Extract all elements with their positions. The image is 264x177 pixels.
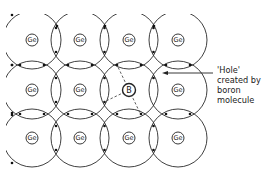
boron-atom: B bbox=[123, 84, 136, 97]
atom-label: Ge bbox=[27, 86, 36, 94]
germanium-atom: Ge bbox=[172, 34, 184, 46]
electron-dot bbox=[104, 25, 107, 28]
atom-label: Ge bbox=[124, 36, 133, 44]
germanium-atom: Ge bbox=[26, 84, 38, 96]
hole-arrow bbox=[162, 71, 213, 75]
electron-dot bbox=[103, 77, 106, 80]
electron-dot bbox=[55, 51, 58, 54]
electron-dot bbox=[165, 64, 168, 67]
germanium-atom: Ge bbox=[172, 84, 184, 96]
atom-label: Ge bbox=[173, 36, 182, 44]
hole-annotation: 'Hole' created by boron molecule bbox=[217, 65, 261, 105]
electron-dot bbox=[11, 112, 14, 115]
atom-label: Ge bbox=[75, 36, 84, 44]
atom-label: Ge bbox=[124, 134, 133, 142]
atom-label: Ge bbox=[27, 134, 36, 142]
electron-dot bbox=[189, 64, 192, 67]
electron-dot bbox=[103, 149, 106, 152]
atom-label: Ge bbox=[27, 36, 36, 44]
electron-dot bbox=[152, 149, 155, 152]
germanium-atom: Ge bbox=[74, 132, 86, 144]
germanium-atom: Ge bbox=[26, 34, 38, 46]
atom-label: Ge bbox=[75, 134, 84, 142]
electron-dot bbox=[152, 125, 155, 128]
electron-dot bbox=[103, 51, 106, 54]
electron-dot bbox=[152, 51, 155, 54]
electron-dot bbox=[11, 162, 14, 165]
germanium-atom: Ge bbox=[74, 34, 86, 46]
electron-dot bbox=[55, 125, 58, 128]
electron-dot bbox=[55, 101, 58, 104]
germanium-atom: Ge bbox=[123, 34, 135, 46]
electron-dot bbox=[56, 25, 59, 28]
electron-dot bbox=[55, 149, 58, 152]
electron-dot bbox=[55, 77, 58, 80]
electron-dot bbox=[152, 77, 155, 80]
electron-dot bbox=[165, 113, 168, 116]
electron-dot bbox=[19, 64, 22, 67]
annotation-line-3: boron bbox=[217, 85, 261, 95]
germanium-atom: Ge bbox=[26, 132, 38, 144]
annotation-line-1: 'Hole' bbox=[217, 65, 261, 75]
germanium-atom: Ge bbox=[123, 132, 135, 144]
electron-dot bbox=[91, 64, 94, 67]
atoms: GeGeGeGeGeGeBGeGeGeGeGe bbox=[26, 34, 184, 144]
electron-dot bbox=[91, 113, 94, 116]
electron-dot bbox=[116, 113, 119, 116]
electron-dot bbox=[140, 64, 143, 67]
electron-dot bbox=[67, 113, 70, 116]
atom-label: Ge bbox=[75, 86, 84, 94]
electron-dot bbox=[43, 64, 46, 67]
electron-dot bbox=[11, 64, 14, 67]
electron-dot bbox=[103, 125, 106, 128]
germanium-atom: Ge bbox=[172, 132, 184, 144]
annotation-line-2: created by bbox=[217, 75, 261, 85]
annotation-line-4: molecule bbox=[217, 95, 261, 105]
electron-dot bbox=[11, 14, 14, 17]
electron-dot bbox=[67, 64, 70, 67]
electron-dot bbox=[43, 113, 46, 116]
atom-label: B bbox=[126, 86, 132, 95]
atom-label: Ge bbox=[173, 86, 182, 94]
electron-dot bbox=[189, 113, 192, 116]
atom-label: Ge bbox=[173, 134, 182, 142]
electron-dot bbox=[19, 113, 22, 116]
germanium-atom: Ge bbox=[74, 84, 86, 96]
electron-dot bbox=[153, 25, 156, 28]
